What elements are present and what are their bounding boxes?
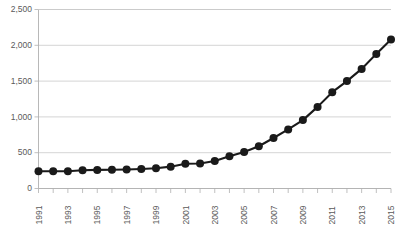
x-tick-label-22: 2013 [357,205,367,224]
data-point-2015 [387,36,395,44]
data-point-2005 [240,148,248,156]
data-point-2013 [358,65,366,73]
data-point-2003 [211,157,219,165]
data-point-2000 [167,163,175,171]
data-point-1993 [64,167,72,175]
y-tick-label-3: 1,500 [11,76,33,86]
data-point-1998 [137,165,145,173]
data-point-1997 [123,166,131,174]
data-point-2014 [372,50,380,58]
x-tick-label-12: 2003 [210,205,220,224]
data-point-2004 [225,152,233,160]
x-tick-label-14: 2005 [239,205,249,224]
data-point-2002 [196,159,204,167]
x-tick-label-6: 1997 [122,205,132,224]
data-point-2001 [181,160,189,168]
x-tick-label-20: 2011 [327,206,337,225]
data-point-2006 [255,142,263,150]
data-point-1999 [152,164,160,172]
line-chart: 05001,0001,5002,0002,5001991199319951997… [0,0,401,227]
data-point-2012 [343,77,351,85]
y-tick-label-5: 2,500 [11,4,33,14]
data-point-1995 [93,166,101,174]
data-point-2011 [328,88,336,96]
data-point-2009 [299,116,307,124]
chart-container: 05001,0001,5002,0002,5001991199319951997… [0,0,401,227]
data-point-1991 [35,167,43,175]
y-tick-label-4: 2,000 [11,40,33,50]
data-point-1994 [79,166,87,174]
x-tick-label-8: 1999 [151,205,161,224]
x-tick-label-24: 2015 [386,205,396,224]
data-point-2010 [314,103,322,111]
y-tick-label-2: 1,000 [11,112,33,122]
x-tick-label-2: 1993 [63,205,73,224]
x-tick-label-4: 1995 [92,205,102,224]
x-tick-label-16: 2007 [269,205,279,224]
y-tick-label-1: 500 [18,147,32,157]
x-tick-label-18: 2009 [298,205,308,224]
data-point-2007 [270,134,278,142]
data-point-2008 [284,125,292,133]
x-tick-label-10: 2001 [181,205,191,224]
data-point-1996 [108,166,116,174]
y-tick-label-0: 0 [27,183,32,193]
series-line [39,40,392,172]
x-tick-label-0: 1991 [34,205,44,224]
data-point-1992 [49,167,57,175]
